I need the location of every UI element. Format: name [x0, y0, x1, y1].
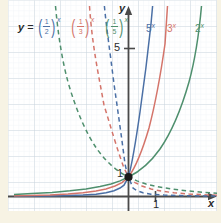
left-paren-icon: ( [38, 19, 42, 35]
equation-y-symbol: y [18, 21, 24, 33]
equation-equals: = [27, 21, 33, 33]
curve-label-exponent: x [152, 22, 156, 29]
figure-container: y = ( 1 2 ) x ( 1 3 ) [0, 0, 221, 223]
term-half-power-x: ( 1 2 ) x [37, 18, 61, 35]
numerator: 1 [45, 18, 49, 26]
numerator: 1 [79, 18, 83, 26]
exponent: x [91, 16, 95, 23]
x-axis-label: x [208, 198, 214, 209]
curve-label-exponent: x [173, 22, 177, 29]
curve-label-exponent: x [201, 22, 205, 29]
left-paren-icon: ( [72, 19, 76, 35]
x-tick-label-1: 1 [153, 199, 159, 210]
curve-label-3-pow-x: 3x [167, 22, 176, 34]
y-axis-label: y [119, 3, 125, 14]
plot-area: y = ( 1 2 ) x ( 1 3 ) [8, 0, 217, 211]
curve-label-2-pow-x: 2x [195, 22, 204, 34]
term-third-power-x: ( 1 3 ) x [70, 18, 94, 35]
right-paren-icon: ) [119, 19, 123, 35]
curve-label-5-pow-x: 5x [146, 22, 155, 34]
term-fifth-power-x: ( 1 5 ) x [104, 18, 128, 35]
y-tick-label-5: 5 [114, 42, 120, 53]
intersection-point [124, 173, 132, 181]
left-paren-icon: ( [106, 19, 110, 35]
denominator: 2 [45, 27, 49, 35]
origin-point-label-1: 1 [117, 168, 123, 179]
equation-label: y = ( 1 2 ) x ( 1 3 ) [18, 18, 128, 35]
y-axis-arrow [125, 6, 132, 15]
right-paren-icon: ) [52, 19, 56, 35]
right-paren-icon: ) [85, 19, 89, 35]
exponent: x [57, 16, 61, 23]
denominator: 5 [112, 27, 116, 35]
numerator: 1 [112, 18, 116, 26]
exponent: x [125, 16, 129, 23]
denominator: 3 [79, 27, 83, 35]
